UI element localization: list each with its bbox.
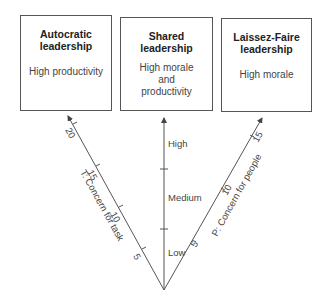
- level-low: Low: [168, 247, 186, 258]
- task-axis: [68, 116, 164, 290]
- axes-diagram: 5 10 15 20 T: Concern for task High Medi…: [0, 0, 330, 305]
- task-tick-5: 5: [131, 252, 143, 262]
- task-tick-20: 20: [63, 126, 78, 141]
- people-tick-5: 5: [188, 239, 200, 249]
- level-medium: Medium: [168, 192, 202, 203]
- people-tick-15: 15: [250, 129, 265, 144]
- level-high: High: [168, 138, 188, 149]
- people-axis-label: P: Concern for people: [209, 152, 263, 238]
